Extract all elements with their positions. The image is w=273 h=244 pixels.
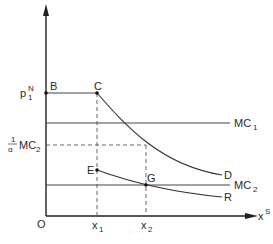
label-p1n: p N 1 xyxy=(20,84,34,102)
label-x2: x 2 xyxy=(141,219,153,234)
svg-text:2: 2 xyxy=(148,225,153,234)
svg-text:1: 1 xyxy=(99,225,104,234)
svg-text:1: 1 xyxy=(28,93,33,102)
svg-text:α: α xyxy=(8,145,13,154)
svg-text:N: N xyxy=(28,84,34,93)
label-mc2: MC 2 xyxy=(234,179,258,194)
curve-r xyxy=(97,170,222,197)
svg-text:MC: MC xyxy=(234,117,251,129)
svg-text:1: 1 xyxy=(11,135,16,144)
economics-diagram: B C E G p N 1 1 α MC 2 O x 1 x 2 x S MC … xyxy=(0,0,273,244)
label-c: C xyxy=(94,80,102,92)
label-r: R xyxy=(224,191,232,203)
svg-text:x: x xyxy=(92,219,98,231)
label-d: D xyxy=(224,169,232,181)
svg-text:p: p xyxy=(20,87,26,99)
label-mc1: MC 1 xyxy=(234,117,258,132)
svg-text:x: x xyxy=(141,219,147,231)
y-axis-arrow xyxy=(43,4,49,16)
svg-text:2: 2 xyxy=(36,145,41,154)
point-e xyxy=(95,168,99,172)
x-axis-arrow xyxy=(245,213,258,219)
label-b: B xyxy=(50,80,57,92)
svg-text:MC: MC xyxy=(19,139,36,151)
label-e: E xyxy=(87,164,94,176)
svg-text:2: 2 xyxy=(253,185,258,194)
label-x1: x 1 xyxy=(92,219,104,234)
point-b xyxy=(44,91,48,95)
label-xs: x S xyxy=(258,207,270,222)
svg-text:x: x xyxy=(258,210,264,222)
label-origin: O xyxy=(37,218,46,230)
label-alpha-mc2: 1 α MC 2 xyxy=(8,135,41,154)
svg-text:MC: MC xyxy=(234,179,251,191)
demand-curve-d xyxy=(97,93,222,175)
svg-text:S: S xyxy=(265,207,270,216)
svg-text:1: 1 xyxy=(253,123,258,132)
label-g: G xyxy=(147,172,156,184)
